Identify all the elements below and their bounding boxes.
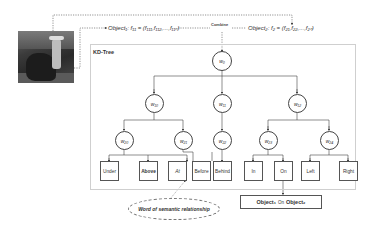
leaf-right: Right: [339, 161, 358, 181]
node-w22: w₂₂: [213, 131, 232, 150]
node-w12: w₁₂: [288, 94, 307, 113]
leaf-behind: Behind: [213, 161, 232, 181]
photo-rider: [52, 39, 61, 69]
leaf-above: Above: [139, 161, 158, 181]
node-w11: w₁₁: [213, 94, 232, 113]
object1-formula: Object₁: f₁₁ = (f₁₁₁,f₁₁₂,...,f₁₁ₙ): [108, 24, 179, 31]
photo-sky: [18, 31, 74, 49]
leaf-in: In: [244, 161, 263, 181]
node-w20: w₂₀: [115, 131, 134, 150]
node-w21: w₂₁: [174, 131, 193, 150]
result-object1: Object₁: [257, 199, 276, 205]
object2-formula: Object₂: f₂ = (f₂₁,f₂₂,...,f₂ₙ): [248, 24, 314, 31]
input-photo: [18, 31, 74, 83]
root-node: w₀: [212, 51, 232, 71]
node-w24: w₂₄: [320, 131, 339, 150]
result-box: Object₁ On Object₂: [240, 195, 322, 209]
node-w23: w₂₃: [259, 131, 278, 150]
kd-tree-title: KD-Tree: [93, 49, 114, 55]
semantic-word-annotation: Word of semantic relationship: [128, 198, 220, 220]
leaf-before: Before: [192, 161, 211, 181]
result-relation: On: [278, 200, 284, 205]
result-object2: Object₂: [286, 199, 306, 205]
photo-hat: [49, 36, 64, 40]
leaf-on: On: [274, 161, 293, 181]
leaf-under: Under: [100, 161, 119, 181]
leaf-left: Left: [301, 161, 320, 181]
node-w10: w₁₀: [145, 94, 164, 113]
combine-label: Combine: [211, 22, 228, 27]
leaf-at: At: [168, 161, 187, 181]
